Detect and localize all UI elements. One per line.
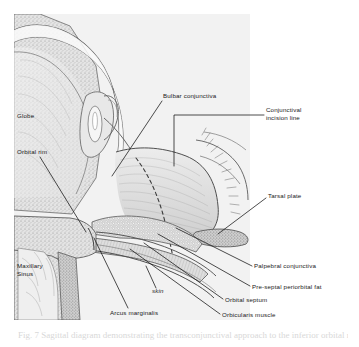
- label-skin: skin: [152, 287, 164, 295]
- label-conjunctival-incision-line1: Conjunctival: [266, 106, 326, 114]
- anatomy-illustration: [0, 0, 359, 347]
- label-globe: Globe: [17, 112, 34, 120]
- label-maxillary-sinus: Maxillary Sinus: [17, 262, 65, 278]
- label-palpebral-conjunctiva: Palpebral conjunctiva: [254, 262, 316, 270]
- anatomical-figure: Globe Orbital rim Maxillary Sinus Bulbar…: [0, 0, 359, 347]
- label-orbital-septum: Orbital septum: [225, 296, 267, 304]
- label-conjunctival-incision-line: Conjunctival incision line: [266, 106, 326, 122]
- label-orbicularis-muscle: Orbicularis muscle: [222, 311, 276, 319]
- label-maxillary-sinus-line1: Maxillary: [17, 262, 65, 270]
- label-bulbar-conjunctiva: Bulbar conjunctiva: [163, 92, 216, 100]
- label-arcus-marginalis: Arcus marginalis: [110, 309, 158, 317]
- label-maxillary-sinus-line2: Sinus: [17, 270, 65, 278]
- label-pre-septal-periorbital-fat: Pre-septal periorbital fat: [252, 283, 322, 291]
- label-tarsal-plate: Tarsal plate: [268, 192, 301, 200]
- figure-caption: Fig. 7 Sagittal diagram demonstrating th…: [18, 330, 348, 341]
- label-orbital-rim: Orbital rim: [17, 148, 47, 156]
- label-conjunctival-incision-line2: incision line: [266, 114, 326, 122]
